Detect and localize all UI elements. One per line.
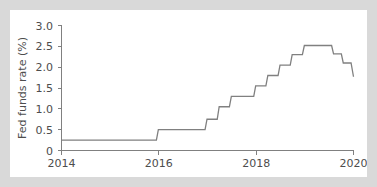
- y-tick-label-1.5: 1.5: [36, 82, 54, 95]
- x-tick-label-2020: 2020: [340, 157, 368, 170]
- x-tick-label-2014: 2014: [48, 157, 76, 170]
- figure-root: 3.0 2.5 2.0 1.5 1.0 0.5 0 2014 2016 2018…: [0, 0, 377, 187]
- y-tick-label-0.5: 0.5: [36, 124, 54, 137]
- x-axis-ticks: [62, 151, 354, 155]
- y-tick-label-2.0: 2.0: [36, 61, 54, 74]
- x-tick-label-2016: 2016: [145, 157, 173, 170]
- fed-funds-rate-line: [62, 46, 354, 141]
- chart-panel: 3.0 2.5 2.0 1.5 1.0 0.5 0 2014 2016 2018…: [10, 10, 367, 177]
- fed-funds-rate-line-chart: 3.0 2.5 2.0 1.5 1.0 0.5 0 2014 2016 2018…: [10, 10, 367, 177]
- y-tick-label-3.0: 3.0: [36, 20, 54, 33]
- y-axis-ticks: [58, 26, 62, 151]
- y-axis-title: Fed funds rate (%): [16, 37, 29, 139]
- y-tick-label-1.0: 1.0: [36, 103, 54, 116]
- y-tick-label-2.5: 2.5: [36, 40, 54, 53]
- y-tick-label-0: 0: [46, 145, 53, 158]
- x-tick-label-2018: 2018: [242, 157, 270, 170]
